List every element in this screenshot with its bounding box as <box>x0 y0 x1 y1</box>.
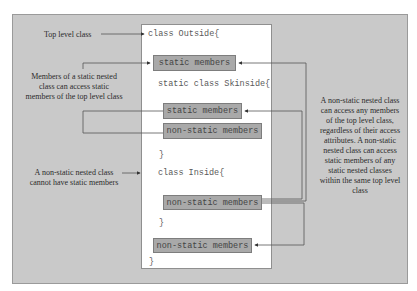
connector-arrows <box>0 0 417 291</box>
